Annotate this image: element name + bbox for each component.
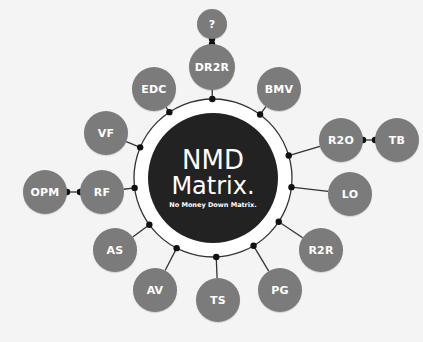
node-label: EDC	[141, 83, 166, 96]
node-opm[interactable]: OPM	[23, 170, 67, 214]
nmd-matrix-diagram: NMD Matrix. No Money Down Matrix. ?DR2RE…	[0, 0, 423, 342]
node-dr2r[interactable]: DR2R	[189, 44, 235, 90]
node-label: LO	[342, 188, 358, 201]
node-lo[interactable]: LO	[328, 172, 372, 216]
connector-dot-vf	[137, 144, 143, 150]
connector-dot-edc	[166, 109, 172, 115]
node-as[interactable]: AS	[93, 228, 137, 272]
center-subtitle: No Money Down Matrix.	[169, 201, 256, 209]
center-title: NMD	[182, 147, 244, 173]
node-label: RF	[94, 186, 110, 199]
node-ts[interactable]: TS	[196, 278, 240, 322]
node-label: AV	[147, 284, 164, 297]
connector-dot-ts	[213, 254, 219, 260]
node-label: VF	[98, 127, 114, 140]
node-label: TB	[389, 134, 405, 147]
connector-line-r2o	[289, 146, 320, 155]
node-edc[interactable]: EDC	[132, 67, 176, 111]
node-label: TS	[210, 294, 226, 307]
node-label: DR2R	[195, 61, 230, 74]
node-label: R2O	[328, 134, 354, 147]
node-bmv[interactable]: BMV	[257, 67, 301, 111]
node-label: R2R	[308, 244, 333, 257]
connector-line-pg	[254, 246, 269, 271]
node-label: ?	[209, 18, 216, 31]
connector-dot-r2o	[286, 152, 292, 158]
node-r2r[interactable]: R2R	[299, 228, 343, 272]
connector-line-lo	[291, 187, 328, 191]
connector-dot-r2r	[276, 219, 282, 225]
center-hub: NMD Matrix. No Money Down Matrix.	[148, 113, 278, 243]
connector-dot-bmv	[257, 111, 263, 117]
node-av[interactable]: AV	[133, 268, 177, 312]
node-rf[interactable]: RF	[80, 170, 124, 214]
connector-dot-av	[173, 245, 179, 251]
node-label: PG	[271, 284, 289, 297]
node-label: BMV	[265, 83, 293, 96]
node-pg[interactable]: PG	[258, 268, 302, 312]
connector-dot-as	[146, 222, 152, 228]
node-tb[interactable]: TB	[375, 118, 419, 162]
node-label: AS	[107, 244, 124, 257]
connector-dot-dr2r	[209, 96, 215, 102]
connector-dot-lo	[288, 184, 294, 190]
center-title-line2: Matrix.	[171, 173, 254, 199]
connector-dot-rf	[131, 185, 137, 191]
connector-line-av	[165, 248, 177, 270]
node-vf[interactable]: VF	[84, 111, 128, 155]
node-q[interactable]: ?	[197, 9, 227, 39]
node-r2o[interactable]: R2O	[319, 118, 363, 162]
node-label: OPM	[31, 186, 60, 199]
connector-line-r2r	[279, 222, 303, 238]
connector-dot-pg	[250, 243, 256, 249]
